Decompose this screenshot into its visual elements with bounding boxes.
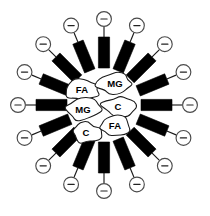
spoke-stem bbox=[152, 153, 159, 160]
spoke-stem bbox=[167, 75, 176, 79]
micelle-diagram-canvas: FAMGMGCCFA bbox=[0, 0, 210, 216]
core-molecule-label: C bbox=[114, 101, 121, 112]
spoke-tail-bar bbox=[136, 114, 169, 136]
micelle-diagram: FAMGMGCCFA bbox=[0, 0, 210, 216]
spoke-stem bbox=[130, 33, 134, 42]
spoke-stem bbox=[74, 168, 78, 177]
micelle-spoke bbox=[141, 98, 197, 113]
spoke-stem bbox=[167, 131, 176, 135]
micelle-spoke bbox=[97, 142, 112, 198]
core-layer: FAMGMGCCFA bbox=[65, 72, 136, 143]
core-molecule-label: FA bbox=[109, 120, 122, 131]
spoke-stem bbox=[74, 33, 78, 42]
core-molecule: MG bbox=[65, 98, 102, 121]
spoke-stem bbox=[130, 168, 134, 177]
spoke-tail-bar bbox=[98, 142, 109, 173]
core-molecule-label: MG bbox=[75, 104, 91, 115]
core-molecule: C bbox=[100, 97, 136, 117]
core-molecule: C bbox=[73, 122, 102, 144]
spoke-tail-bar bbox=[73, 40, 95, 73]
spoke-tail-bar bbox=[136, 74, 169, 96]
spoke-tail-bar bbox=[98, 37, 109, 68]
core-molecule: FA bbox=[66, 79, 99, 100]
spoke-stem bbox=[32, 75, 41, 79]
core-molecule-label: C bbox=[82, 127, 89, 138]
spoke-stem bbox=[49, 153, 56, 160]
micelle-spoke bbox=[97, 12, 112, 68]
core-molecule: FA bbox=[100, 115, 130, 136]
micelle-spoke bbox=[11, 98, 67, 113]
spoke-tail-bar bbox=[113, 137, 135, 170]
spoke-stem bbox=[32, 131, 41, 135]
core-molecule-label: FA bbox=[76, 84, 89, 95]
spoke-tail-bar bbox=[126, 53, 156, 83]
spoke-tail-bar bbox=[39, 114, 72, 136]
core-molecule-label: MG bbox=[107, 78, 123, 89]
spoke-stem bbox=[152, 50, 159, 57]
spoke-tail-bar bbox=[126, 127, 156, 157]
spoke-stem bbox=[49, 50, 56, 57]
spoke-tail-bar bbox=[141, 99, 172, 110]
spoke-tail-bar bbox=[36, 99, 67, 110]
spoke-tail-bar bbox=[113, 40, 135, 73]
core-molecule: MG bbox=[95, 72, 132, 94]
